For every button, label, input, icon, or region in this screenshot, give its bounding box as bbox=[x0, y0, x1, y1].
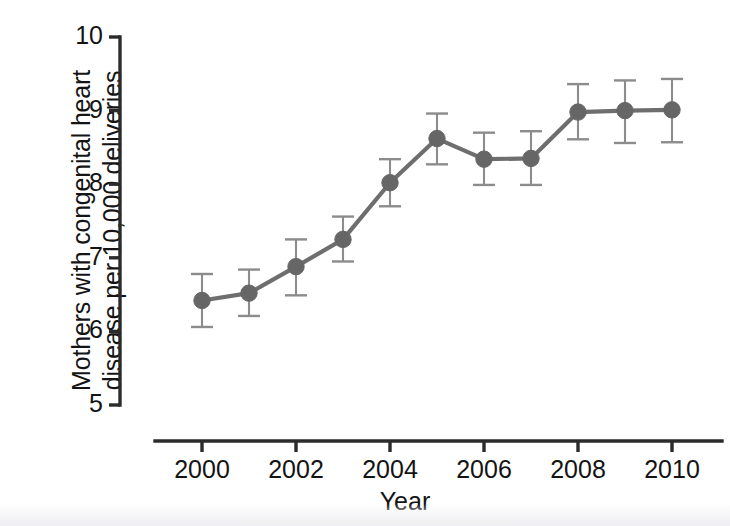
y-tick-label: 10 bbox=[47, 21, 103, 50]
data-point-marker[interactable] bbox=[617, 102, 633, 118]
data-point-marker[interactable] bbox=[241, 285, 257, 301]
data-point-marker[interactable] bbox=[664, 102, 680, 118]
x-tick-label: 2008 bbox=[533, 455, 623, 484]
y-tick-label: 7 bbox=[47, 242, 103, 271]
chart-figure: Mothers with congenital heart disease pe… bbox=[0, 0, 730, 526]
x-tick-label: 2004 bbox=[345, 455, 435, 484]
y-tick-label: 6 bbox=[47, 315, 103, 344]
data-point-marker[interactable] bbox=[429, 130, 445, 146]
plot-area bbox=[0, 0, 730, 526]
data-point-marker[interactable] bbox=[288, 258, 304, 274]
x-tick-label: 2000 bbox=[157, 455, 247, 484]
data-point-marker[interactable] bbox=[570, 104, 586, 120]
axis-layer bbox=[109, 37, 722, 452]
data-point-marker[interactable] bbox=[335, 231, 351, 247]
x-tick-label: 2010 bbox=[627, 455, 717, 484]
y-tick-label: 8 bbox=[47, 168, 103, 197]
y-tick-label: 9 bbox=[47, 95, 103, 124]
series-layer bbox=[191, 79, 683, 327]
data-point-marker[interactable] bbox=[523, 150, 539, 166]
y-tick-label: 5 bbox=[47, 389, 103, 418]
data-point-marker[interactable] bbox=[382, 175, 398, 191]
data-point-marker[interactable] bbox=[476, 151, 492, 167]
data-point-marker[interactable] bbox=[194, 292, 210, 308]
x-tick-label: 2006 bbox=[439, 455, 529, 484]
x-tick-label: 2002 bbox=[251, 455, 341, 484]
